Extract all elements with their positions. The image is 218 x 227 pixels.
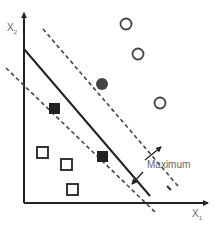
- support-vector-square: [49, 103, 60, 114]
- y-axis-label-sub: 2: [14, 29, 17, 35]
- maximum-margin-label: Maximum: [147, 160, 190, 170]
- open-circle-point: [155, 98, 166, 109]
- y-axis-label-text: X: [7, 22, 14, 33]
- svm-diagram: [0, 0, 218, 227]
- y-axis-label: X2: [7, 23, 17, 35]
- x-axis-label-sub: 1: [199, 215, 202, 221]
- x-axis-label-text: X: [192, 208, 199, 219]
- support-vector-circle: [96, 78, 108, 90]
- open-square-point: [61, 159, 72, 170]
- support-vector-square: [97, 151, 108, 162]
- x-axis-label: X1: [192, 209, 202, 221]
- open-square-point: [67, 184, 78, 195]
- open-square-point: [37, 147, 48, 158]
- open-circle-point: [121, 19, 132, 30]
- decision-boundary: [24, 49, 150, 196]
- open-circle-point: [133, 49, 144, 60]
- lower-margin-line: [6, 68, 156, 213]
- dash-mark: [167, 186, 171, 190]
